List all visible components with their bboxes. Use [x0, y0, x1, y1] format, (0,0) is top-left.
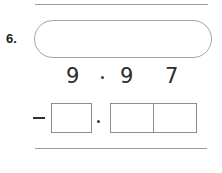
- worksheet-problem: 6. 9 9 7: [0, 0, 222, 173]
- printed-digit-whole: 9: [66, 61, 79, 91]
- answer-box-whole[interactable]: [51, 103, 92, 133]
- printed-digit-hundredths: 7: [165, 61, 178, 91]
- answer-work-row: [0, 103, 222, 135]
- answer-box-hundredths[interactable]: [154, 104, 197, 132]
- printed-decimal-point-icon: [101, 76, 104, 79]
- minus-sign-icon: [33, 117, 45, 119]
- printed-digit-tenths: 9: [120, 61, 133, 91]
- answer-bubble[interactable]: [34, 20, 212, 58]
- answer-decimal-point-icon: [97, 120, 100, 123]
- top-divider: [35, 4, 208, 5]
- problem-number: 6.: [6, 31, 17, 46]
- printed-expression-row: 9 9 7: [0, 61, 222, 93]
- bottom-divider: [35, 148, 207, 149]
- answer-box-decimal-pair: [110, 103, 197, 133]
- answer-box-tenths[interactable]: [111, 104, 154, 132]
